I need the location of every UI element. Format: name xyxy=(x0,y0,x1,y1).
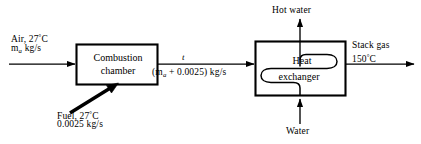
water-inlet-label: Water xyxy=(286,126,309,138)
fuel-flow-rate-label: 0.0025 kg/s xyxy=(57,119,103,131)
combustion-chamber-line2: chamber xyxy=(78,65,158,78)
heat-exchanger-line1: Heat xyxy=(258,55,346,68)
heat-exchanger-line2: exchanger xyxy=(255,71,343,84)
hot-water-label: Hot water xyxy=(272,5,311,17)
air-flow-rate-label: ma kg/s xyxy=(11,43,41,57)
combustion-chamber-line1: Combustion xyxy=(78,52,158,65)
process-flow-diagram: Air, 27°C ma kg/s Combustion chamber Fue… xyxy=(0,0,421,144)
air-flow-subscript: a xyxy=(19,47,23,54)
stack-gas-temperature-label: 150°C xyxy=(352,51,376,66)
products-flow-subscript: a xyxy=(163,71,167,78)
stack-gas-label: Stack gas xyxy=(352,40,390,52)
combustion-chamber-label: Combustion chamber xyxy=(78,52,158,77)
combustion-products-flow-label: (ma + 0.0025) kg/s xyxy=(152,67,226,81)
state-point-t-label: t xyxy=(182,52,185,64)
